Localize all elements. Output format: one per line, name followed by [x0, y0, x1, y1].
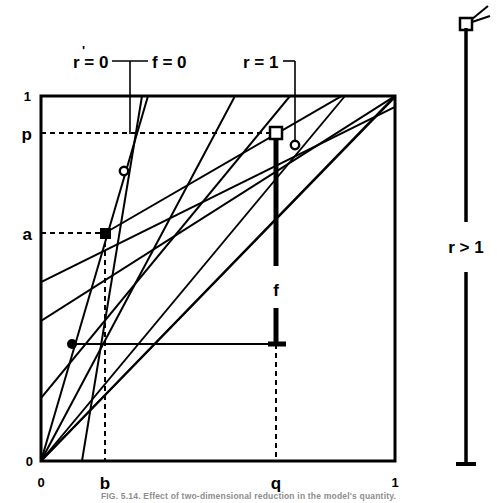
figure-svg: r = 0 ' f = 0 r = 1 r > 1 f 1 p a 0 0 b … — [0, 0, 497, 503]
annotation-f-bracket: f — [273, 281, 279, 300]
line-f-equals-0 — [41, 96, 235, 461]
annotation-r-prime-mark: ' — [82, 43, 85, 58]
y-tick-label-a: a — [23, 225, 33, 244]
marker-pivot-b-a — [100, 228, 111, 239]
plot-lines-group — [41, 24, 466, 461]
annotation-r-equals-1: r = 1 — [243, 53, 278, 72]
annotation-f-equals-0: f = 0 — [152, 53, 187, 72]
marker-point-q-p — [270, 127, 282, 139]
y-tick-label-p: p — [22, 125, 32, 144]
line-r-prime-equals-0 — [82, 96, 142, 461]
annotation-r-prime-equals-0: r = 0 — [73, 53, 108, 72]
figure-caption: FIG. 5.14. Effect of two-dimensional red… — [0, 489, 497, 503]
line-pivot-through-qp — [41, 107, 395, 282]
x-tick-label-0: 0 — [37, 475, 44, 490]
y-tick-label-0: 0 — [26, 454, 33, 469]
marker-open-circle-r-prime-zero — [120, 167, 128, 175]
line-lower-shallow-ray — [41, 96, 290, 398]
figure-root: r = 0 ' f = 0 r = 1 r > 1 f 1 p a 0 0 b … — [0, 0, 497, 503]
y-tick-label-1: 1 — [24, 89, 31, 104]
line-bottom-left-to-qp — [41, 96, 345, 461]
marker-low-left-filled-dot — [67, 339, 77, 349]
off-chart-convergence-group — [460, 6, 490, 30]
annotation-leaders-group — [112, 61, 295, 141]
x-tick-label-1: 1 — [391, 475, 398, 490]
annotation-r-greater-than-1: r > 1 — [448, 238, 483, 257]
marker-open-circle-r-one — [291, 141, 299, 149]
